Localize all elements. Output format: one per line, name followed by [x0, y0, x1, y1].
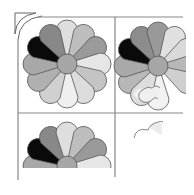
- flower-center: [148, 56, 168, 76]
- corner-ornament-icon: [15, 13, 42, 40]
- flower-complete: [23, 20, 111, 108]
- petal-fragment-lower-right: [134, 122, 163, 139]
- flower-center: [57, 54, 77, 74]
- cutoff-mask: [186, 18, 194, 113]
- quilt-canvas: [0, 0, 194, 195]
- flowers-layer: [20, 18, 194, 195]
- cutoff-mask: [20, 168, 114, 195]
